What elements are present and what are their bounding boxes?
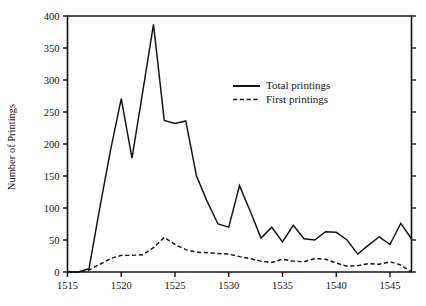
chart-svg: 0501001502002503003504001515152015251530… [0,0,426,306]
x-tick-label-1515: 1515 [57,280,78,291]
x-tick-label-1540: 1540 [326,280,347,291]
tick-labels-group: 0501001502002503003504001515152015251530… [44,11,401,291]
y-tick-label-200: 200 [44,139,60,150]
y-axis-title-text: Number of Printings [6,104,17,190]
plot-frame [68,16,412,272]
x-tick-label-1520: 1520 [111,280,132,291]
ticks-group [63,16,416,277]
series-line-first-printings [68,237,412,272]
x-tick-label-1525: 1525 [165,280,186,291]
y-tick-label-300: 300 [44,75,60,86]
legend-label-total-printings: Total printings [266,79,330,91]
legend-label-first-printings: First printings [266,93,328,105]
chart-figure: 0501001502002503003504001515152015251530… [0,0,426,306]
y-tick-label-0: 0 [54,267,59,278]
y-tick-label-150: 150 [44,171,60,182]
x-tick-label-1535: 1535 [272,280,293,291]
y-tick-label-50: 50 [49,235,60,246]
y-tick-label-100: 100 [44,203,60,214]
chart-legend: Total printingsFirst printings [233,79,330,105]
data-series-group [68,24,412,272]
axes-group [68,16,412,272]
y-tick-label-400: 400 [44,11,60,22]
y-axis-title: Number of Printings [6,104,17,190]
y-tick-label-350: 350 [44,43,60,54]
x-tick-label-1530: 1530 [218,280,239,291]
x-tick-label-1545: 1545 [380,280,401,291]
y-tick-label-250: 250 [44,107,60,118]
series-line-total-printings [68,24,412,272]
